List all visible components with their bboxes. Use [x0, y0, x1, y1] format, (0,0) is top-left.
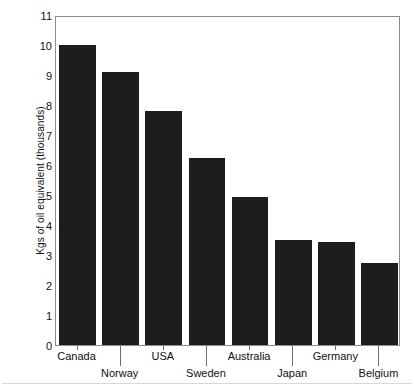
bar-australia — [232, 197, 269, 346]
bar-norway — [102, 72, 139, 345]
y-tick-label: 9 — [12, 70, 52, 82]
bottom-divider — [2, 383, 412, 384]
x-tick-mark — [249, 346, 250, 350]
x-tick-mark — [206, 346, 207, 366]
x-tick-label-australia: Australia — [228, 350, 271, 362]
y-tick-label: 5 — [12, 190, 52, 202]
y-tick-label: 4 — [12, 220, 52, 232]
y-tick-label: 7 — [12, 130, 52, 142]
y-tick-label: 11 — [12, 10, 52, 22]
plot-inner — [56, 17, 399, 345]
y-tick-label: 8 — [12, 100, 52, 112]
y-tick-label: 6 — [12, 160, 52, 172]
x-tick-label-norway: Norway — [101, 367, 138, 379]
y-tick-label: 1 — [12, 310, 52, 322]
y-tick-label: 10 — [12, 40, 52, 52]
bar-japan — [275, 240, 312, 345]
x-tick-label-canada: Canada — [57, 350, 96, 362]
bar-chart: Kgs of oil equivalent (thousands) 012345… — [0, 0, 414, 386]
bar-canada — [59, 45, 96, 345]
plot-area — [55, 16, 400, 346]
x-tick-mark — [120, 346, 121, 366]
x-tick-mark — [378, 346, 379, 366]
x-tick-label-belgium: Belgium — [359, 367, 399, 379]
x-tick-mark — [292, 346, 293, 366]
bar-germany — [318, 242, 355, 346]
bar-sweden — [189, 158, 226, 346]
bar-belgium — [361, 263, 398, 346]
x-tick-mark — [163, 346, 164, 350]
x-tick-label-japan: Japan — [277, 367, 307, 379]
x-tick-label-usa: USA — [152, 350, 175, 362]
x-tick-mark — [77, 346, 78, 350]
y-axis-title: Kgs of oil equivalent (thousands) — [35, 61, 46, 301]
x-tick-mark — [335, 346, 336, 350]
x-tick-label-germany: Germany — [313, 350, 358, 362]
y-tick-label: 0 — [12, 340, 52, 352]
bar-usa — [145, 111, 182, 345]
y-tick-label: 2 — [12, 280, 52, 292]
y-tick-label: 3 — [12, 250, 52, 262]
x-tick-label-sweden: Sweden — [186, 367, 226, 379]
